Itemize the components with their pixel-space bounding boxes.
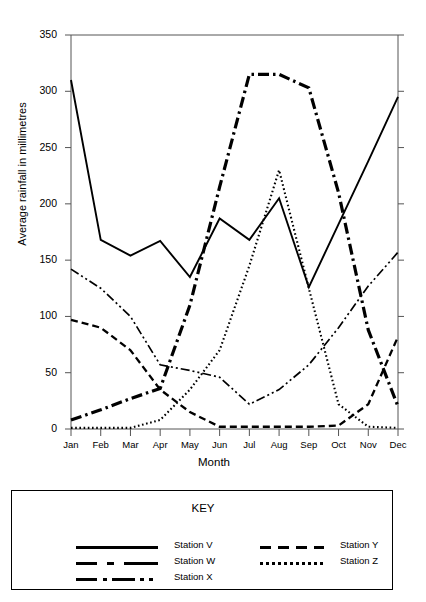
- x-axis-tick-label: Mar: [115, 439, 145, 450]
- x-axis-tick-label: Nov: [353, 439, 383, 450]
- y-axis-tick-label: 150: [23, 253, 57, 265]
- series-line-station-v: [71, 80, 398, 287]
- x-axis-tick-label: Jun: [205, 439, 235, 450]
- key-entry-label: Station Z: [340, 555, 378, 566]
- key-line-swatch-station-z: [260, 562, 324, 565]
- key-line-swatch-station-y: [260, 546, 324, 549]
- series-line-station-z: [71, 170, 398, 428]
- x-axis-tick-label: Oct: [324, 439, 354, 450]
- y-axis-tick-label: 250: [23, 141, 57, 153]
- key-entry-label: Station Y: [340, 539, 378, 550]
- series-line-station-x: [71, 252, 398, 404]
- line-chart-svg: [0, 0, 426, 480]
- chart-plot-region: Average rainfall in millimetres Month 05…: [0, 0, 426, 480]
- y-axis-tick-label: 200: [23, 197, 57, 209]
- x-axis-tick-label: Feb: [86, 439, 116, 450]
- key-title: KEY: [12, 502, 394, 514]
- key-line-swatch-station-w: [76, 562, 158, 565]
- rainfall-chart-page: Average rainfall in millimetres Month 05…: [0, 0, 426, 602]
- series-line-station-y: [71, 320, 398, 427]
- y-axis-tick-label: 350: [23, 28, 57, 40]
- y-axis-tick-label: 50: [23, 366, 57, 378]
- key-entry-label: Station X: [174, 571, 213, 582]
- series-line-station-w: [71, 74, 398, 420]
- y-axis-tick-label: 0: [23, 422, 57, 434]
- x-axis-title: Month: [171, 456, 257, 468]
- y-axis-tick-label: 300: [23, 84, 57, 96]
- x-axis-tick-label: Aug: [264, 439, 294, 450]
- x-axis-tick-label: Sep: [294, 439, 324, 450]
- y-axis-tick-label: 100: [23, 309, 57, 321]
- key-legend-box: KEY Station VStation WStation X Station …: [11, 490, 393, 590]
- key-line-swatch-station-v: [76, 546, 158, 549]
- x-axis-tick-label: Jan: [56, 439, 86, 450]
- key-entry-label: Station W: [174, 555, 215, 566]
- key-entry-label: Station V: [174, 539, 213, 550]
- key-line-swatch-station-x: [76, 578, 158, 581]
- x-axis-tick-label: May: [175, 439, 205, 450]
- x-axis-tick-label: Jul: [234, 439, 264, 450]
- y-axis-title: Average rainfall in millimetres: [16, 74, 28, 274]
- x-axis-tick-label: Dec: [383, 439, 413, 450]
- x-axis-tick-label: Apr: [145, 439, 175, 450]
